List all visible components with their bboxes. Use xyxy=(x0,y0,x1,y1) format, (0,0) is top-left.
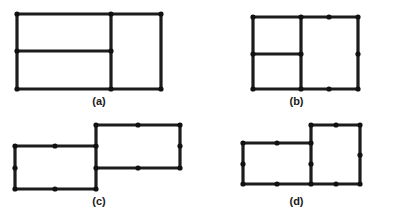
panel-b-node-top-left xyxy=(250,14,255,19)
panel-d-node-right-top-right xyxy=(357,122,362,127)
panel-c-node-right-bottom-right xyxy=(177,165,182,170)
panel-b-node-bottom-right xyxy=(355,86,360,91)
panel-a-node-bottom-left xyxy=(14,86,19,91)
panel-c: (c) xyxy=(0,111,198,222)
panel-d: (d) xyxy=(198,111,395,222)
panel-c-node-left-top-left xyxy=(12,143,17,148)
panel-b-node-bottom-divider xyxy=(298,86,303,91)
panel-c-node-left-left-midpoint xyxy=(12,165,17,170)
panel-b: (b) xyxy=(198,0,395,111)
panel-b-node-bottom-left xyxy=(250,86,255,91)
panel-d-node-junction-bottom xyxy=(308,181,313,186)
panel-c-node-right-bottom-left xyxy=(93,165,98,170)
panel-d-node-right-bottom-right xyxy=(357,181,362,186)
panel-a-node-mid-divider xyxy=(108,48,113,53)
panel-d-caption: (d) xyxy=(198,195,395,207)
panel-c-node-left-top-midpoint xyxy=(52,143,57,148)
panel-a: (a) xyxy=(0,0,198,111)
panel-b-node-top-divider xyxy=(298,14,303,19)
panel-a-node-top-right xyxy=(158,11,163,16)
panel-d-node-right-bottom-midpoint xyxy=(333,181,338,186)
panel-c-node-left-bottom-midpoint xyxy=(52,186,57,191)
panel-d-node-left-left-midpoint xyxy=(240,161,245,166)
panel-d-node-right-top-midpoint xyxy=(333,122,338,127)
panel-b-node-top-right-midpoint xyxy=(326,14,331,19)
panel-a-node-top-divider xyxy=(108,11,113,16)
panel-a-caption: (a) xyxy=(0,95,198,107)
panel-b-node-mid-divider xyxy=(298,51,303,56)
panel-a-node-bottom-right xyxy=(158,86,163,91)
panel-c-node-junction-bottom xyxy=(93,186,98,191)
panel-d-node-junction-top xyxy=(308,140,313,145)
panel-b-node-mid-left xyxy=(250,51,255,56)
panel-c-node-left-bottom-left xyxy=(12,186,17,191)
panel-a-node-bottom-divider xyxy=(108,86,113,91)
panel-c-node-right-top-midpoint xyxy=(135,122,140,127)
panel-c-node-right-top-left xyxy=(93,122,98,127)
panel-c-node-right-bottom-midpoint xyxy=(135,165,140,170)
panel-b-caption: (b) xyxy=(198,95,395,107)
panel-d-node-right-right-midpoint xyxy=(357,152,362,157)
panel-d-node-left-top-midpoint xyxy=(274,140,279,145)
panel-d-node-junction-mid xyxy=(308,161,313,166)
panel-d-node-left-bottom-left xyxy=(240,181,245,186)
panel-b-node-bottom-right-midpoint xyxy=(326,86,331,91)
panel-c-node-right-right-midpoint xyxy=(177,143,182,148)
panel-c-caption: (c) xyxy=(0,195,198,207)
panel-b-node-right-midpoint xyxy=(355,51,360,56)
panel-c-node-junction-top xyxy=(93,143,98,148)
panel-b-node-top-right xyxy=(355,14,360,19)
panel-a-node-top-left xyxy=(14,11,19,16)
panel-d-node-left-bottom-midpoint xyxy=(274,181,279,186)
panel-a-node-mid-left xyxy=(14,48,19,53)
panel-d-node-right-top-left xyxy=(308,122,313,127)
panel-d-node-left-top-left xyxy=(240,140,245,145)
panel-c-node-right-top-right xyxy=(177,122,182,127)
figure-panel: (a)(b)(c)(d) xyxy=(0,0,395,222)
